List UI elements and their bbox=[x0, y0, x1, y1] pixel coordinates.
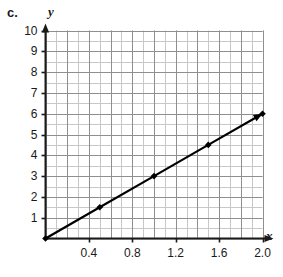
y-tick-label: 10 bbox=[16, 25, 38, 37]
y-tick-label: 2 bbox=[16, 191, 38, 203]
y-tick-label: 4 bbox=[16, 149, 38, 161]
y-tick-label: 1 bbox=[16, 212, 38, 224]
plot-area bbox=[0, 0, 283, 277]
x-tick-label: 0.8 bbox=[112, 247, 152, 259]
x-tick-label: 1.6 bbox=[199, 247, 239, 259]
y-axis-label: y bbox=[48, 5, 54, 18]
graph-figure: c. y x 12345678910 0.40.81.21.62.0 bbox=[0, 0, 283, 277]
y-tick-label: 7 bbox=[16, 87, 38, 99]
y-tick-label: 9 bbox=[16, 45, 38, 57]
x-tick-label: 0.4 bbox=[69, 247, 109, 259]
y-tick-label: 3 bbox=[16, 170, 38, 182]
y-tick-label: 8 bbox=[16, 66, 38, 78]
y-tick-label: 5 bbox=[16, 129, 38, 141]
part-label: c. bbox=[7, 6, 18, 20]
y-tick-label: 6 bbox=[16, 108, 38, 120]
x-tick-label: 2.0 bbox=[243, 247, 283, 259]
x-tick-label: 1.2 bbox=[156, 247, 196, 259]
x-axis-label: x bbox=[266, 229, 273, 242]
axes bbox=[42, 24, 274, 243]
